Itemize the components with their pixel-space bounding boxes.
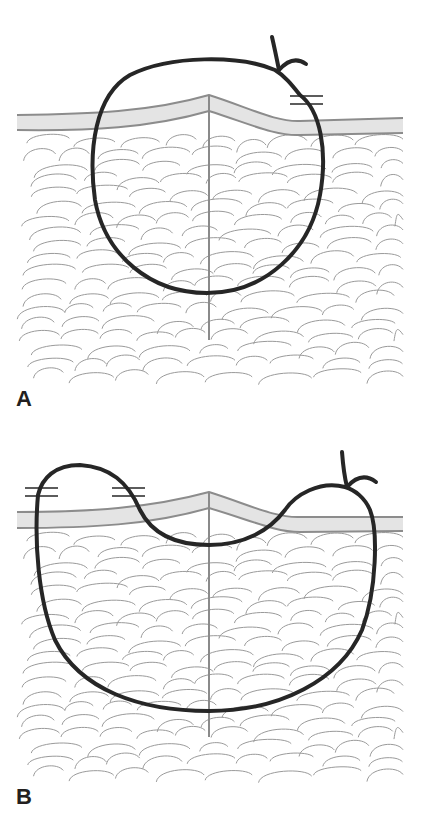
fat-lobule [267,533,307,546]
fat-lobule [288,597,334,606]
fat-lobule [22,677,66,687]
fat-lobule [195,674,233,684]
fat-lobule [333,172,373,182]
fat-lobule [75,757,106,769]
fat-lobule [380,597,403,607]
fat-lobule [139,202,187,214]
fat-lobule [84,570,116,579]
fat-lobule [358,727,392,738]
fat-lobule [381,174,403,186]
fat-lobule [65,304,93,313]
fat-lobule [214,264,251,273]
fat-lobule [377,225,403,236]
fat-lobule [325,613,354,622]
fat-lobule [320,226,373,237]
fat-lobule [162,689,206,698]
fat-lobule [335,342,369,354]
fat-lobule [361,706,403,718]
fat-lobule [22,317,55,329]
suture-knot-tail [272,37,279,70]
fat-lobule [117,215,156,228]
fat-lobule [75,279,106,290]
fat-lobule [95,159,140,170]
fat-lobule [102,714,154,727]
fat-lobule [160,173,201,182]
fat-lobule [172,667,214,678]
fat-lobule [141,626,172,638]
fat-lobule [314,767,362,775]
fat-lobule [322,703,353,713]
fat-lobule [289,276,329,287]
fat-lobule [332,562,372,571]
fat-lobule [106,753,139,764]
fat-lobule [333,570,373,580]
fat-lobule [357,254,401,263]
fat-lobule [62,317,99,327]
fat-lobule [185,636,235,647]
fat-lobule [106,355,139,366]
fat-lobule [241,291,294,302]
fat-lobule [379,663,403,674]
fat-lobule [137,730,174,739]
fat-lobule [82,264,128,272]
fat-lobule [100,330,132,339]
fat-lobule [282,641,319,651]
fat-lobule [355,135,403,146]
fat-lobule [246,203,286,216]
fat-lobule [142,545,190,557]
fat-lobule [192,146,232,155]
fat-lobule [375,545,403,554]
panel-a: A [0,0,423,420]
fat-lobule [187,563,234,573]
fat-lobule [34,240,81,251]
fat-lobule [214,662,251,671]
fat-lobule [362,191,403,203]
fat-lobule [160,571,201,580]
fat-lobule [333,546,373,556]
panel-a-illustration [0,0,423,420]
fat-lobule [367,371,403,384]
fat-lobule [77,583,128,592]
fat-lobule [156,611,188,622]
fat-lobule [98,150,138,159]
fat-lobule [358,329,392,340]
fat-lobule [376,637,403,648]
fat-lobule [163,679,194,690]
fat-lobule [362,589,403,601]
fat-lobule [28,358,74,367]
fat-lobule [137,332,174,341]
fat-lobule [143,358,182,371]
fat-lobule [77,250,118,259]
fat-lobule [59,148,89,161]
fat-lobule [239,571,288,580]
fat-lobule [357,652,401,661]
fat-lobule [395,214,403,226]
fat-lobule [377,623,403,634]
fat-lobule [193,609,234,619]
fat-lobule [201,717,234,727]
fat-lobule [271,705,322,717]
fat-lobule [28,756,74,765]
fat-lobule [70,692,109,702]
fat-lobule [19,330,59,341]
fat-lobule [323,756,360,766]
fat-lobule [143,559,180,568]
fat-lobule [163,253,193,263]
suture-knot-curl [347,478,376,487]
fat-lobule [90,623,139,633]
fat-lobule [240,317,289,328]
fat-lobule [185,238,235,249]
suture-knot-tail [342,452,347,487]
fat-lobule [175,726,205,735]
fat-lobule [205,373,252,383]
fat-lobule [65,702,93,711]
fat-lobule [356,290,394,302]
fat-lobule [27,253,70,262]
fat-lobule [267,135,307,148]
fat-lobule [82,600,135,611]
fat-lobule [187,356,235,366]
fat-lobule [34,165,87,178]
fat-lobule [352,319,395,328]
fat-lobule [69,373,114,383]
fat-lobule [84,172,116,181]
